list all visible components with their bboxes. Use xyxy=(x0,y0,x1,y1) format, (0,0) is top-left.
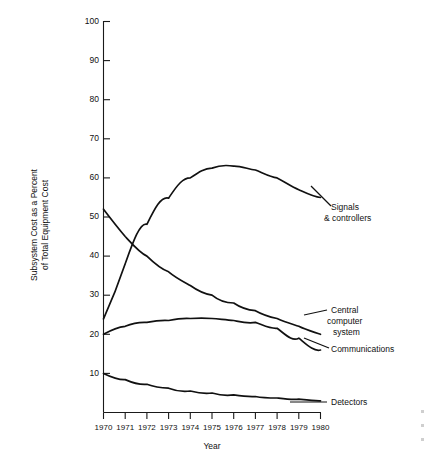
series-label-central-computer-system: Central computer system xyxy=(327,305,363,337)
x-tick-label: 1977 xyxy=(247,423,265,432)
chart-figure: 100 90 80 70 60 50 40 30 20 10 xyxy=(0,0,426,456)
y-tick-marks xyxy=(104,22,111,374)
y-tick-label: 90 xyxy=(90,55,100,65)
y-tick-label: 60 xyxy=(90,172,100,182)
page-edge-mark xyxy=(421,410,424,413)
page-edge-mark xyxy=(421,424,424,427)
y-axis-title-line2: of Total Equipment Cost xyxy=(40,179,50,270)
x-tick-label: 1979 xyxy=(290,423,308,432)
y-tick-label: 70 xyxy=(90,133,100,143)
y-tick-label: 20 xyxy=(90,329,100,339)
x-tick-label: 1971 xyxy=(116,423,134,432)
x-tick-label: 1980 xyxy=(312,423,330,432)
y-axis-title: Subsystem Cost as a Percent of Total Equ… xyxy=(29,168,50,281)
x-tick-marks xyxy=(104,413,321,420)
x-tick-label: 1973 xyxy=(160,423,178,432)
series-line-detectors xyxy=(104,373,321,400)
line-chart-svg: 100 90 80 70 60 50 40 30 20 10 xyxy=(0,0,426,456)
series-label-signals-line2: & controllers xyxy=(324,213,371,223)
y-tick-label: 100 xyxy=(85,16,99,26)
x-axis-title: Year xyxy=(203,441,220,451)
y-tick-label: 40 xyxy=(90,250,100,260)
series-line-central-computer-system xyxy=(104,209,321,334)
x-tick-label: 1970 xyxy=(95,423,113,432)
series-label-central-line1: Central xyxy=(331,305,359,315)
page-edge-mark xyxy=(421,438,424,441)
x-tick-label: 1972 xyxy=(138,423,156,432)
series-label-central-line3: system xyxy=(333,327,360,337)
y-tick-labels: 100 90 80 70 60 50 40 30 20 10 xyxy=(85,16,99,378)
y-axis-title-line1: Subsystem Cost as a Percent xyxy=(29,168,39,281)
x-tick-label: 1974 xyxy=(181,423,199,432)
x-tick-labels: 1970 1971 1972 1973 1974 1975 1976 1977 … xyxy=(95,423,330,432)
leader-line-central xyxy=(304,310,327,315)
y-tick-label: 50 xyxy=(90,211,100,221)
y-tick-label: 80 xyxy=(90,94,100,104)
x-tick-label: 1978 xyxy=(268,423,286,432)
x-tick-label: 1975 xyxy=(203,423,221,432)
x-tick-label: 1976 xyxy=(225,423,243,432)
series-label-communications: Communications xyxy=(331,344,394,354)
series-label-signals-controllers: Signals & controllers xyxy=(324,202,371,223)
y-tick-label: 30 xyxy=(90,289,100,299)
y-tick-label: 10 xyxy=(90,368,100,378)
series-label-signals-line1: Signals xyxy=(331,202,359,212)
series-label-central-line2: computer xyxy=(327,316,363,326)
series-label-detectors: Detectors xyxy=(331,397,367,407)
